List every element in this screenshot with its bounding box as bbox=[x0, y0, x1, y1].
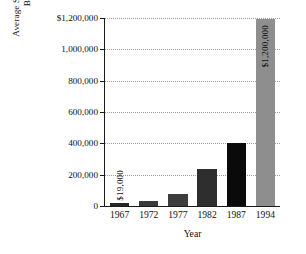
bar-1982 bbox=[197, 169, 216, 206]
plot-area: 0200,000400,000600,000800,0001,000,000$1… bbox=[104, 18, 280, 207]
x-tick-label-1972: 1972 bbox=[139, 209, 158, 220]
x-axis-title: Year bbox=[105, 228, 280, 239]
y-tick-label: 200,000 bbox=[68, 170, 98, 180]
x-tick-label-1967: 1967 bbox=[110, 209, 129, 220]
bar-1972 bbox=[139, 201, 158, 206]
x-axis-line bbox=[104, 206, 280, 207]
y-tick-mark bbox=[100, 206, 105, 207]
bar-value-label-1994: $1,200,000 bbox=[260, 25, 270, 68]
bar-1967: $19,000 bbox=[110, 203, 129, 206]
bar-1987 bbox=[227, 143, 246, 206]
y-tick-label: 0 bbox=[93, 201, 98, 211]
y-tick-label: 600,000 bbox=[68, 107, 98, 117]
y-axis-title-line-2: Baseball Players bbox=[22, 0, 34, 6]
bar-1994: $1,200,000 bbox=[256, 19, 275, 206]
y-tick-label: 400,000 bbox=[68, 138, 98, 148]
x-tick-label-1994: 1994 bbox=[256, 209, 275, 220]
y-tick-label: $1,200,000 bbox=[57, 13, 98, 23]
y-tick-label: 800,000 bbox=[68, 76, 98, 86]
bar-chart: Average Salary of Major League Baseball … bbox=[0, 0, 306, 254]
bar-value-label-1967: $19,000 bbox=[115, 170, 125, 201]
y-axis-title-line-1: Average Salary of Major League bbox=[11, 0, 23, 37]
x-tick-label-1977: 1977 bbox=[168, 209, 187, 220]
x-tick-label-1982: 1982 bbox=[197, 209, 216, 220]
bar-1977 bbox=[168, 194, 187, 206]
bars: $19,000$1,200,000 bbox=[105, 18, 280, 206]
y-tick-label: 1,000,000 bbox=[61, 44, 98, 54]
x-axis-tick-labels: 196719721977198219871994 bbox=[105, 209, 280, 223]
y-axis-title: Average Salary of Major League Baseball … bbox=[8, 0, 36, 60]
x-tick-label-1987: 1987 bbox=[227, 209, 246, 220]
